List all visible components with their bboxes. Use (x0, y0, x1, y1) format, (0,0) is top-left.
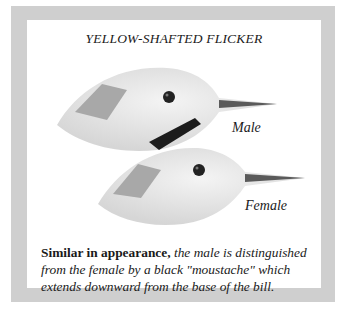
female-label: Female (245, 198, 287, 214)
caption-lead: Similar in appearance, (41, 245, 171, 260)
female-bird-illustration (83, 132, 323, 232)
caption: Similar in appearance, the male is disti… (41, 244, 313, 295)
card-panel: YELLOW-SHAFTED FLICKER Male (27, 20, 321, 288)
card-frame: YELLOW-SHAFTED FLICKER Male (11, 6, 335, 302)
card-title: YELLOW-SHAFTED FLICKER (27, 31, 321, 47)
